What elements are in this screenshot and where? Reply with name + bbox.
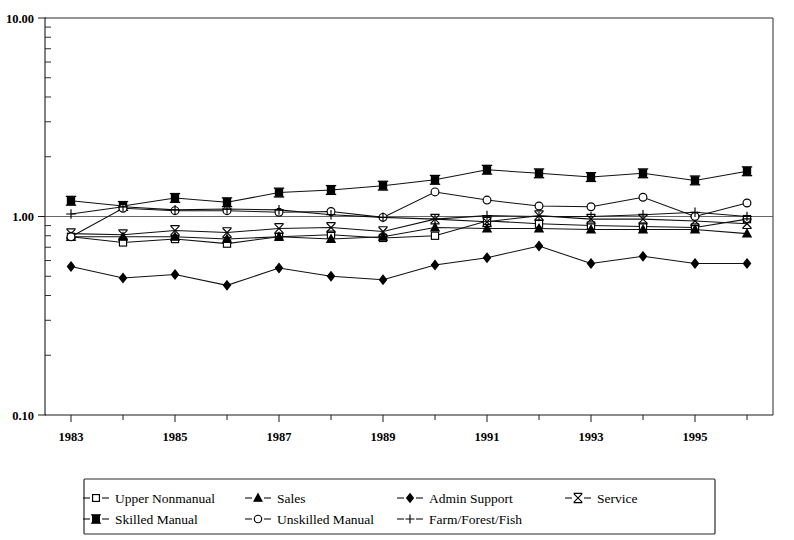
chart-legend: Upper NonmanualSalesAdmin SupportService…: [83, 479, 715, 534]
data-point: [431, 188, 439, 196]
x-axis-tick-label: 1985: [163, 430, 188, 444]
data-point: [170, 194, 180, 203]
legend-label: Upper Nonmanual: [115, 491, 215, 506]
x-axis-tick-label: 1995: [683, 430, 708, 444]
data-point: [66, 196, 76, 205]
legend-label: Admin Support: [429, 491, 513, 506]
data-point: [430, 175, 440, 184]
legend-label: Sales: [277, 491, 306, 506]
legend-label: Service: [597, 491, 637, 506]
chart-background: [0, 0, 794, 540]
legend-marker-filled-square-icon: [91, 515, 101, 523]
data-point: [326, 186, 336, 195]
data-point: [587, 203, 595, 211]
x-axis-tick-label: 1989: [371, 430, 396, 444]
data-point: [431, 232, 438, 239]
data-point: [638, 169, 648, 178]
data-point: [534, 169, 544, 178]
x-axis-tick-label: 1993: [579, 430, 604, 444]
y-axis-tick-label: 10.00: [6, 12, 34, 26]
chart-figure: 10.001.000.10 19831985198719891991199319…: [0, 0, 794, 540]
x-axis-tick-label: 1991: [475, 430, 500, 444]
legend-label: Skilled Manual: [115, 512, 198, 527]
y-axis-tick-label: 1.00: [12, 210, 34, 224]
data-point: [67, 233, 75, 241]
occupational-index-line-chart: 10.001.000.10 19831985198719891991199319…: [0, 0, 794, 540]
x-axis-tick-label: 1987: [267, 430, 292, 444]
legend-label: Farm/Forest/Fish: [429, 512, 522, 527]
y-axis-tick-label: 0.10: [12, 409, 34, 423]
data-point: [274, 188, 284, 197]
data-point: [690, 176, 700, 185]
x-axis-tick-label: 1983: [59, 430, 84, 444]
legend-label: Unskilled Manual: [277, 512, 374, 527]
data-point: [535, 202, 543, 210]
data-point: [482, 165, 492, 174]
data-point: [378, 181, 388, 190]
data-point: [639, 193, 647, 201]
legend-marker-open-square-icon: [93, 495, 100, 502]
data-point: [483, 196, 491, 204]
data-point: [742, 167, 752, 176]
data-point: [743, 199, 751, 207]
data-point: [586, 173, 596, 182]
legend-marker-open-circle-icon: [254, 515, 261, 522]
